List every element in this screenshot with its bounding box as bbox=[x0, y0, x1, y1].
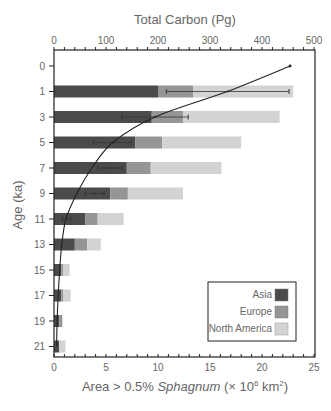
svg-text:100: 100 bbox=[98, 35, 115, 46]
svg-text:0: 0 bbox=[51, 362, 57, 373]
svg-text:5: 5 bbox=[103, 362, 109, 373]
bar-segment bbox=[63, 290, 70, 302]
top-axis-ticks: 0100200300400500 bbox=[51, 35, 323, 50]
bar-segment bbox=[162, 137, 241, 149]
svg-text:15: 15 bbox=[204, 362, 216, 373]
bar-segment bbox=[183, 111, 280, 123]
legend: Asia Europe North America bbox=[208, 282, 296, 341]
bar-segment bbox=[75, 239, 87, 251]
svg-text:3: 3 bbox=[39, 112, 45, 123]
bar-segment bbox=[54, 239, 75, 251]
bar-segment bbox=[135, 137, 162, 149]
legend-swatch-asia bbox=[275, 289, 288, 301]
svg-text:500: 500 bbox=[306, 35, 323, 46]
top-axis-label: Total Carbon (Pg) bbox=[134, 12, 236, 27]
bar-segment bbox=[54, 86, 158, 98]
bar-segment bbox=[151, 162, 222, 174]
svg-text:7: 7 bbox=[39, 163, 45, 174]
bar-segment bbox=[59, 341, 65, 353]
svg-text:20: 20 bbox=[256, 362, 268, 373]
svg-text:13: 13 bbox=[34, 239, 46, 250]
svg-text:19: 19 bbox=[34, 316, 46, 327]
bar-segment bbox=[61, 264, 63, 276]
svg-text:5: 5 bbox=[39, 137, 45, 148]
svg-text:400: 400 bbox=[254, 35, 271, 46]
y-axis-ticks: 013579111315171921 bbox=[34, 61, 54, 353]
carbon-curve-endpoint bbox=[289, 65, 292, 68]
bar-segment bbox=[110, 188, 128, 200]
legend-swatch-europe bbox=[275, 306, 288, 318]
svg-text:0: 0 bbox=[51, 35, 57, 46]
x-axis-label: Area > 0.5% Sphagnum (× 106 km2) bbox=[82, 379, 288, 394]
y-axis-label: Age (ka) bbox=[10, 180, 25, 229]
bar-segment bbox=[127, 162, 151, 174]
svg-text:21: 21 bbox=[34, 341, 46, 352]
svg-text:9: 9 bbox=[39, 188, 45, 199]
svg-text:17: 17 bbox=[34, 290, 46, 301]
legend-label-asia: Asia bbox=[253, 289, 273, 300]
legend-label-europe: Europe bbox=[240, 306, 273, 317]
svg-text:1: 1 bbox=[39, 86, 45, 97]
svg-text:10: 10 bbox=[152, 362, 164, 373]
bar-segment bbox=[63, 264, 69, 276]
svg-text:15: 15 bbox=[34, 265, 46, 276]
legend-label-north-america: North America bbox=[209, 323, 273, 334]
svg-text:0: 0 bbox=[39, 61, 45, 72]
svg-text:25: 25 bbox=[308, 362, 320, 373]
svg-text:11: 11 bbox=[35, 214, 46, 225]
bar-segment bbox=[59, 315, 62, 327]
legend-swatch-north-america bbox=[275, 323, 288, 335]
bar-segment bbox=[128, 188, 183, 200]
bar-segment bbox=[85, 213, 97, 225]
chart: Total Carbon (Pg) 0100200300400500 05101… bbox=[0, 0, 331, 411]
bar-segment bbox=[87, 239, 101, 251]
svg-text:200: 200 bbox=[150, 35, 167, 46]
bar-segment bbox=[61, 290, 63, 302]
bar-segment bbox=[98, 213, 124, 225]
svg-text:300: 300 bbox=[202, 35, 219, 46]
